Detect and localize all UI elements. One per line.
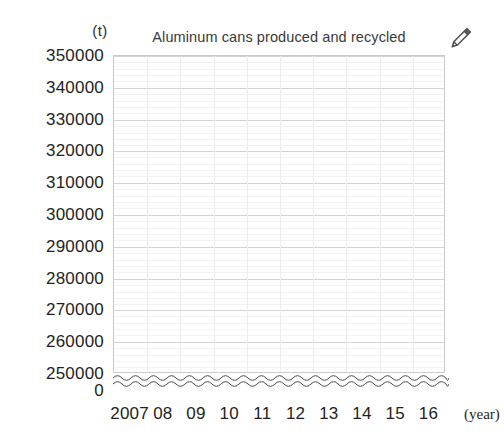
gridline-horizontal-minor — [114, 272, 444, 273]
gridline-horizontal-minor — [114, 94, 444, 95]
chart-title: Aluminum cans produced and recycled — [113, 29, 445, 45]
gridline-vertical — [147, 56, 148, 372]
gridline-horizontal-minor — [114, 126, 444, 127]
gridline-horizontal-minor — [114, 234, 444, 235]
gridline-horizontal-minor — [114, 298, 444, 299]
gridline-horizontal-minor — [114, 335, 444, 336]
gridline-horizontal-minor — [114, 157, 444, 158]
gridline-vertical — [180, 56, 181, 372]
x-axis-tick-10: 10 — [216, 404, 242, 424]
x-axis-tick-09: 09 — [183, 404, 209, 424]
gridline-horizontal-minor — [114, 367, 444, 368]
gridline-vertical — [346, 56, 347, 372]
gridline-horizontal-minor — [114, 361, 444, 362]
plot-area — [113, 55, 445, 373]
gridline-horizontal-minor — [114, 323, 444, 324]
gridline-horizontal-minor — [114, 113, 444, 114]
gridline-vertical — [280, 56, 281, 372]
gridline-horizontal-major — [114, 279, 444, 280]
gridline-horizontal-minor — [114, 285, 444, 286]
gridline-horizontal-minor — [114, 240, 444, 241]
gridline-horizontal-minor — [114, 348, 444, 349]
gridline-horizontal-minor — [114, 304, 444, 305]
y-axis-tick-330000: 330000 — [0, 110, 104, 130]
gridline-horizontal-minor — [114, 81, 444, 82]
gridline-vertical — [247, 56, 248, 372]
gridline-horizontal-minor — [114, 208, 444, 209]
chart-figure: (t) Aluminum cans produced and recycled … — [0, 0, 504, 447]
x-axis-tick-2007: 2007 — [106, 404, 154, 424]
x-axis-tick-14: 14 — [349, 404, 375, 424]
gridline-horizontal-minor — [114, 75, 444, 76]
gridline-horizontal-minor — [114, 292, 444, 293]
gridline-horizontal-minor — [114, 228, 444, 229]
gridline-horizontal-minor — [114, 69, 444, 70]
x-axis-tick-15: 15 — [382, 404, 408, 424]
y-axis-tick-340000: 340000 — [0, 78, 104, 98]
gridline-horizontal-major — [114, 310, 444, 311]
gridline-horizontal-minor — [114, 176, 444, 177]
gridline-horizontal-minor — [114, 170, 444, 171]
gridline-horizontal-minor — [114, 266, 444, 267]
gridline-horizontal-minor — [114, 62, 444, 63]
gridline-horizontal-minor — [114, 260, 444, 261]
y-axis-tick-290000: 290000 — [0, 237, 104, 257]
gridline-horizontal-minor — [114, 145, 444, 146]
gridline-horizontal-major — [114, 56, 444, 57]
gridline-horizontal-major — [114, 215, 444, 216]
gridline-vertical — [413, 56, 414, 372]
gridline-horizontal-minor — [114, 101, 444, 102]
gridline-horizontal-minor — [114, 329, 444, 330]
pencil-icon[interactable] — [448, 25, 474, 51]
axis-break-wave — [113, 372, 449, 390]
gridline-horizontal-major — [114, 120, 444, 121]
gridline-horizontal-minor — [114, 133, 444, 134]
gridline-vertical — [313, 56, 314, 372]
gridline-horizontal-major — [114, 183, 444, 184]
x-axis-tick-12: 12 — [283, 404, 309, 424]
y-axis-tick-270000: 270000 — [0, 300, 104, 320]
gridline-horizontal-major — [114, 151, 444, 152]
x-axis-tick-16: 16 — [415, 404, 441, 424]
x-axis-unit-label: (year) — [464, 406, 500, 423]
gridline-horizontal-minor — [114, 355, 444, 356]
gridline-horizontal-minor — [114, 316, 444, 317]
gridline-horizontal-minor — [114, 221, 444, 222]
y-axis-tick-310000: 310000 — [0, 173, 104, 193]
y-axis-tick-260000: 260000 — [0, 332, 104, 352]
gridline-vertical — [214, 56, 215, 372]
gridline-horizontal-major — [114, 88, 444, 89]
gridline-horizontal-minor — [114, 164, 444, 165]
y-axis-tick-0: 0 — [0, 381, 104, 401]
x-axis-tick-13: 13 — [316, 404, 342, 424]
gridline-horizontal-minor — [114, 253, 444, 254]
gridline-horizontal-minor — [114, 202, 444, 203]
gridline-horizontal-minor — [114, 196, 444, 197]
x-axis-tick-08: 08 — [150, 404, 176, 424]
y-axis-tick-320000: 320000 — [0, 141, 104, 161]
gridline-horizontal-major — [114, 247, 444, 248]
gridline-horizontal-minor — [114, 107, 444, 108]
x-axis-tick-labels: (year) 2007080910111213141516 — [106, 404, 504, 430]
y-axis-tick-350000: 350000 — [0, 46, 104, 66]
y-axis-tick-300000: 300000 — [0, 205, 104, 225]
gridline-vertical — [380, 56, 381, 372]
gridline-horizontal-major — [114, 342, 444, 343]
gridline-horizontal-minor — [114, 139, 444, 140]
gridline-horizontal-minor — [114, 189, 444, 190]
x-axis-tick-11: 11 — [249, 404, 275, 424]
y-axis-tick-280000: 280000 — [0, 269, 104, 289]
